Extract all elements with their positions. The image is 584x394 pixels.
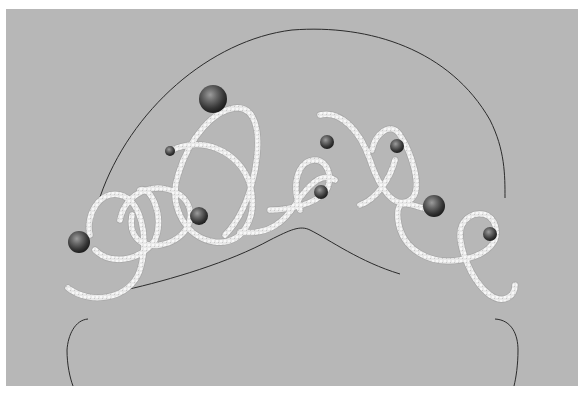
pearl-icon [483, 227, 497, 241]
pearl-icon [190, 207, 208, 225]
tiara-illustration [0, 0, 584, 394]
pearl-icon [423, 195, 445, 217]
pearl-icon [320, 135, 334, 149]
tiara-drawing [0, 0, 584, 394]
pearl-icon [199, 85, 227, 113]
pearl-icon [68, 231, 90, 253]
pearl-icon [390, 139, 404, 153]
canvas-background [6, 9, 578, 386]
pearl-icon [314, 185, 328, 199]
pearl-icon [165, 146, 175, 156]
